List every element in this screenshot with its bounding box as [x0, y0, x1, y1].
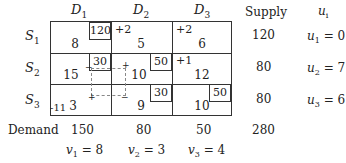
loop-sign-minus-s3d2: − [121, 92, 129, 102]
grid-divider [172, 22, 173, 115]
loop-sign-plus-s2d2: + [122, 60, 130, 70]
header-d2: D2 [133, 2, 149, 20]
delta-s1-d3: +2 [176, 23, 192, 36]
supply-s1: 120 [252, 28, 275, 42]
delta-s2-d3: +1 [176, 54, 192, 67]
u2-value: u2 = 7 [307, 61, 345, 77]
cost-s1-d3: 6 [192, 37, 212, 51]
v1-value: v1 = 8 [66, 143, 103, 159]
header-supply: Supply [245, 5, 287, 19]
cost-s3-d1: 3 [63, 99, 83, 113]
v2-value: v2 = 3 [128, 143, 165, 159]
demand-d1: 150 [71, 123, 94, 137]
grid-divider [51, 53, 231, 54]
demand-d2: 80 [136, 123, 151, 137]
cost-s2-d2: 10 [129, 68, 149, 82]
header-ui: ui [318, 4, 328, 20]
row-label-s1: S1 [25, 28, 40, 46]
loop-sign-minus-s2d1: − [85, 62, 93, 72]
cost-s3-d3: 10 [192, 99, 212, 113]
allocation-s2-d2: 50 [150, 53, 172, 71]
demand-d3: 50 [196, 123, 211, 137]
cost-s3-d2: 9 [131, 99, 151, 113]
allocation-s3-d2: 30 [150, 84, 172, 102]
u1-value: u1 = 0 [307, 29, 345, 45]
v3-value: v3 = 4 [188, 143, 225, 159]
cost-s1-d1: 8 [65, 37, 85, 51]
loop-sign-plus-s3d1: + [88, 92, 96, 102]
cost-s2-d1: 15 [61, 68, 81, 82]
grid-divider [51, 84, 231, 85]
supply-s3: 80 [256, 92, 271, 106]
cost-s2-d3: 12 [192, 68, 212, 82]
row-label-s2: S2 [25, 60, 40, 78]
demand-total: 280 [252, 123, 275, 137]
allocation-s3-d3: 50 [209, 84, 231, 102]
allocation-s1-d1: 120 [89, 22, 111, 40]
header-d1: D1 [71, 2, 87, 20]
cost-s1-d2: 5 [131, 37, 151, 51]
row-label-s3: S3 [25, 92, 40, 110]
demand-label: Demand [8, 123, 59, 137]
header-d3: D3 [194, 2, 210, 20]
u3-value: u3 = 6 [307, 93, 345, 109]
delta-s1-d2: +2 [115, 23, 131, 36]
transportation-table: 120 8 +2 5 +2 6 30 15 50 10 +1 12 -11 3 … [50, 21, 232, 116]
supply-s2: 80 [256, 60, 271, 74]
